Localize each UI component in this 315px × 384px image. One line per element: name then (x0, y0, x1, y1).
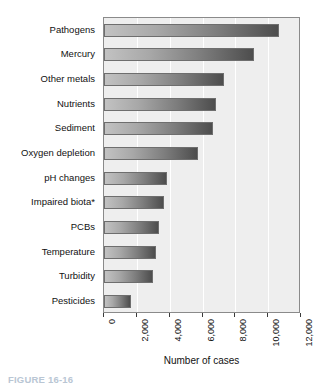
x-tick-mark (300, 313, 301, 317)
x-tick-label: 0 (107, 319, 117, 324)
x-tick-mark (103, 313, 104, 317)
category-label: Other metals (41, 66, 95, 91)
x-tick-label: 12,000 (304, 319, 314, 347)
bar (104, 48, 254, 61)
category-label: pH changes (44, 165, 95, 190)
figure-caption: FIGURE 16-16 (8, 374, 73, 384)
x-tick-label: 6,000 (206, 319, 216, 342)
x-tick-label: 10,000 (271, 319, 281, 347)
figure-container: PathogensMercuryOther metalsNutrientsSed… (0, 0, 315, 384)
bar-row (104, 289, 300, 313)
category-label: Temperature (42, 239, 95, 264)
category-label: Pathogens (50, 17, 95, 42)
category-label: Oxygen depletion (21, 140, 95, 165)
x-tick-label: 2,000 (140, 319, 150, 342)
bar (104, 221, 159, 234)
y-axis-category-labels: PathogensMercuryOther metalsNutrientsSed… (0, 17, 99, 313)
x-tick-mark (136, 313, 137, 317)
bar (104, 246, 156, 259)
x-tick-label: 8,000 (238, 319, 248, 342)
bar (104, 122, 213, 135)
category-label: Nutrients (57, 91, 95, 116)
bar-row (104, 18, 300, 43)
category-label: Sediment (55, 116, 95, 141)
category-label: Impaired biota* (31, 190, 95, 215)
bar (104, 270, 153, 283)
bar (104, 73, 224, 86)
bar (104, 98, 216, 111)
plot-area (103, 17, 300, 313)
bar (104, 196, 164, 209)
bar-row (104, 117, 300, 142)
category-label: Mercury (61, 42, 95, 67)
bar-row (104, 141, 300, 166)
x-tick-label: 4,000 (173, 319, 183, 342)
bar-row (104, 166, 300, 191)
x-axis-title: Number of cases (103, 355, 300, 366)
bars-layer (104, 18, 299, 312)
bar-row (104, 67, 300, 92)
bar-row (104, 43, 300, 68)
x-tick-mark (202, 313, 203, 317)
bar-row (104, 265, 300, 290)
bar-row (104, 215, 300, 240)
x-tick-mark (234, 313, 235, 317)
category-label: PCBs (71, 214, 95, 239)
bar (104, 295, 131, 308)
bar (104, 172, 167, 185)
category-label: Pesticides (52, 288, 95, 313)
category-label: Turbidity (59, 264, 95, 289)
bar-row (104, 240, 300, 265)
x-tick-mark (267, 313, 268, 317)
bar (104, 24, 279, 37)
bar-row (104, 92, 300, 117)
bar (104, 147, 198, 160)
x-tick-mark (169, 313, 170, 317)
bar-row (104, 191, 300, 216)
